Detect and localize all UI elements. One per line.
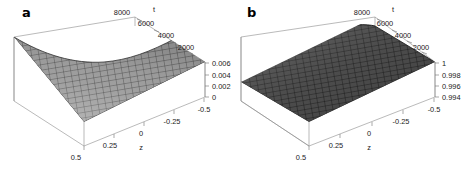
- panel-a-plot: 8000 6000 4000 2000 t 0.006 0.004 0.002 …: [0, 0, 235, 169]
- panel-b-plot: 8000 6000 4000 2000 t 1 0.998 0.996 0.99…: [235, 0, 470, 169]
- panel-b-value-tick-0998: 0.998: [442, 71, 461, 80]
- panel-b-z-tick-0: 0: [367, 129, 371, 138]
- panel-a-t-tick-2000: 2000: [178, 43, 194, 52]
- panel-b-z-tick-neg025: -0.25: [393, 117, 410, 126]
- panel-a-value-tick-0006: 0.006: [212, 59, 231, 68]
- panel-a-t-tick-4000: 4000: [158, 31, 174, 40]
- panel-a-t-tick-6000: 6000: [138, 19, 154, 28]
- panel-b-z-tick-025: 0.25: [329, 141, 343, 150]
- panel-b-t-tick-6000: 6000: [377, 19, 393, 28]
- panel-b-t-tick-4000: 4000: [395, 31, 411, 40]
- panel-a-value-axis: [205, 63, 209, 97]
- panel-a-t-axis-label: t: [153, 5, 155, 14]
- panel-b-z-axis-label: z: [367, 143, 371, 152]
- panel-a: a: [0, 0, 235, 169]
- figure-two-panel-surface-plots: a: [0, 0, 470, 169]
- panel-b-value-tick-1: 1: [442, 59, 446, 68]
- panel-a-z-tick-neg05: -0.5: [198, 105, 211, 114]
- panel-a-value-tick-0004: 0.004: [212, 71, 231, 80]
- panel-a-z-tick-05: 0.5: [71, 153, 81, 162]
- panel-b: b: [235, 0, 470, 169]
- panel-b-value-tick-0994: 0.994: [442, 93, 461, 102]
- panel-a-z-tick-neg025: -0.25: [164, 117, 181, 126]
- panel-b-z-tick-05: 0.5: [296, 153, 306, 162]
- panel-a-surface: [14, 37, 205, 122]
- panel-a-z-tick-0: 0: [139, 129, 143, 138]
- panel-b-z-tick-neg05: -0.5: [428, 105, 441, 114]
- panel-b-t-tick-2000: 2000: [413, 43, 429, 52]
- panel-a-value-tick-0002: 0.002: [212, 82, 231, 91]
- panel-b-t-tick-8000: 8000: [354, 8, 370, 17]
- panel-a-value-tick-0: 0: [212, 93, 216, 102]
- panel-b-t-axis-label: t: [392, 5, 394, 14]
- panel-b-value-tick-0996: 0.996: [442, 82, 461, 91]
- panel-a-t-tick-8000: 8000: [114, 8, 130, 17]
- panel-a-z-axis-label: z: [139, 143, 143, 152]
- panel-b-value-axis: [435, 63, 439, 97]
- panel-a-z-tick-025: 0.25: [103, 141, 117, 150]
